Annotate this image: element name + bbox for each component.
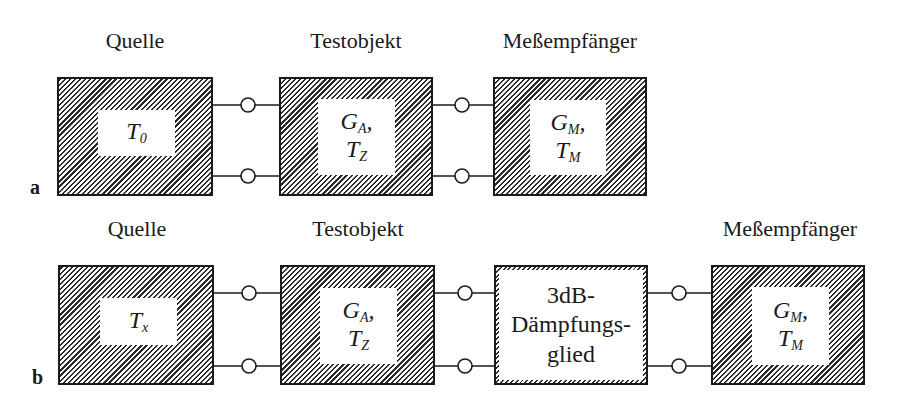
receiver-param-area: GM, TM — [530, 100, 606, 175]
source-param-area: Tx — [100, 298, 177, 345]
heading-source-a: Quelle — [106, 28, 165, 54]
source-block-a: T0 — [57, 77, 213, 196]
row-label-b: b — [32, 366, 43, 389]
param-symbol: T — [126, 118, 139, 144]
heading-dut-a: Testobjekt — [310, 28, 401, 54]
source-param-area: T0 — [98, 110, 175, 156]
dut-block-a: GA, TZ — [279, 77, 433, 196]
attenuator-block-b: 3dB- Dämpfungs- glied — [494, 265, 648, 385]
port-terminal — [241, 98, 255, 112]
dut-block-b: GA, TZ — [280, 265, 435, 385]
source-block-b: Tx — [58, 265, 214, 385]
heading-source-b: Quelle — [108, 216, 167, 242]
receiver-block-a: GM, TM — [493, 77, 647, 196]
param-subscript: 0 — [140, 131, 147, 146]
dut-param-area: GA, TZ — [318, 99, 395, 175]
receiver-param-area: GM, TM — [752, 287, 829, 365]
heading-receiver-b: Meßempfänger — [723, 216, 857, 242]
dut-param-area: GA, TZ — [320, 288, 397, 364]
row-label-a: a — [30, 176, 40, 199]
receiver-block-b: GM, TM — [711, 265, 865, 385]
attenuator-label: 3dB- Dämpfungs- glied — [496, 267, 646, 383]
heading-dut-b: Testobjekt — [312, 216, 403, 242]
heading-receiver-a: Meßempfänger — [503, 28, 637, 54]
